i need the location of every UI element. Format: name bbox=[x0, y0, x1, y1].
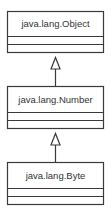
class-diagram: java.lang.Object java.lang.Number java.l… bbox=[0, 0, 111, 212]
generalization-edge-byte-number bbox=[51, 134, 60, 163]
class-box-number[interactable]: java.lang.Number bbox=[8, 87, 104, 129]
class-name: java.lang.Number bbox=[17, 94, 92, 105]
generalization-edge-number-object bbox=[51, 58, 60, 87]
hollow-triangle-arrow-icon bbox=[51, 134, 60, 146]
hollow-triangle-arrow-icon bbox=[51, 58, 60, 70]
class-box-object[interactable]: java.lang.Object bbox=[8, 12, 104, 53]
class-name: java.lang.Byte bbox=[25, 170, 86, 181]
class-name: java.lang.Object bbox=[20, 18, 89, 29]
class-box-byte[interactable]: java.lang.Byte bbox=[8, 163, 104, 205]
